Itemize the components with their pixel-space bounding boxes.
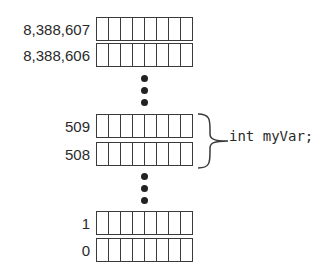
bit-cell	[133, 18, 145, 40]
bit-cell	[109, 115, 121, 137]
bit-cell	[145, 44, 157, 66]
bit-cell	[181, 143, 192, 165]
bit-cell	[97, 115, 109, 137]
bit-cell	[169, 143, 181, 165]
memory-byte-row	[96, 17, 193, 41]
bit-cell	[145, 212, 157, 234]
bit-cell	[97, 44, 109, 66]
address-label: 1	[0, 211, 90, 236]
bit-cell	[97, 143, 109, 165]
bit-cell	[157, 44, 169, 66]
bit-cell	[121, 18, 133, 40]
bit-cell	[121, 212, 133, 234]
address-label: 508	[0, 142, 90, 167]
address-label: 8,388,607	[0, 17, 90, 42]
bit-cell	[157, 115, 169, 137]
bit-cell	[169, 239, 181, 261]
ellipsis-dot-icon	[141, 173, 148, 180]
bit-cell	[109, 143, 121, 165]
memory-byte-row	[96, 142, 193, 166]
bit-cell	[181, 239, 192, 261]
bit-cell	[181, 212, 192, 234]
bit-cell	[97, 18, 109, 40]
ellipsis-dot-icon	[141, 87, 148, 94]
bit-cell	[121, 239, 133, 261]
bit-cell	[169, 18, 181, 40]
ellipsis-dot-icon	[141, 185, 148, 192]
bit-cell	[109, 239, 121, 261]
bit-cell	[157, 239, 169, 261]
bit-cell	[181, 18, 192, 40]
bit-cell	[145, 115, 157, 137]
address-label: 509	[0, 114, 90, 139]
bit-cell	[121, 143, 133, 165]
bit-cell	[109, 44, 121, 66]
bit-cell	[133, 143, 145, 165]
bit-cell	[157, 212, 169, 234]
bit-cell	[133, 44, 145, 66]
brace-icon	[196, 112, 232, 170]
address-label: 0	[0, 238, 90, 263]
memory-byte-row	[96, 43, 193, 67]
bit-cell	[97, 212, 109, 234]
bit-cell	[133, 239, 145, 261]
bit-cell	[121, 44, 133, 66]
bit-cell	[109, 18, 121, 40]
bit-cell	[145, 143, 157, 165]
bit-cell	[169, 44, 181, 66]
variable-declaration: int myVar;	[229, 128, 313, 144]
address-label: 8,388,606	[0, 43, 90, 68]
bit-cell	[169, 212, 181, 234]
bit-cell	[97, 239, 109, 261]
bit-cell	[169, 115, 181, 137]
bit-cell	[109, 212, 121, 234]
ellipsis-dot-icon	[141, 197, 148, 204]
memory-byte-row	[96, 238, 193, 262]
bit-cell	[145, 239, 157, 261]
ellipsis-dot-icon	[141, 75, 148, 82]
bit-cell	[145, 18, 157, 40]
bit-cell	[181, 44, 192, 66]
bit-cell	[157, 143, 169, 165]
bit-cell	[133, 115, 145, 137]
bit-cell	[133, 212, 145, 234]
memory-byte-row	[96, 211, 193, 235]
bit-cell	[157, 18, 169, 40]
bit-cell	[181, 115, 192, 137]
memory-byte-row	[96, 114, 193, 138]
bit-cell	[121, 115, 133, 137]
ellipsis-dot-icon	[141, 99, 148, 106]
